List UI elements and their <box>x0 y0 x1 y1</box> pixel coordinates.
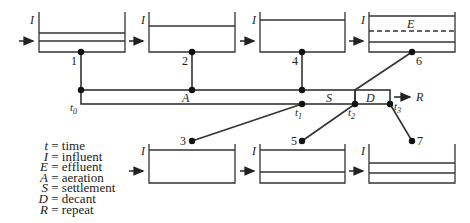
phase-decant: D <box>365 91 375 105</box>
svg-text:4: 4 <box>292 54 298 68</box>
time-t1: t1 <box>295 106 302 121</box>
tank-4 <box>260 12 345 52</box>
svg-text:I: I <box>251 13 257 27</box>
phase-settlement: S <box>326 91 332 105</box>
svg-text:I: I <box>140 144 146 158</box>
timeline <box>81 90 410 104</box>
tank-3 <box>149 144 235 183</box>
legend-item: R = repeat <box>38 205 115 216</box>
svg-text:7: 7 <box>417 134 423 148</box>
svg-text:I: I <box>140 13 146 27</box>
legend: t = time I = influent E = effluent A = a… <box>38 141 115 215</box>
tank-1 <box>39 12 125 52</box>
nodes <box>78 49 415 144</box>
phase-aeration: A <box>181 91 190 105</box>
svg-text:3: 3 <box>180 134 186 148</box>
phase-repeat: R <box>415 90 424 104</box>
connectors <box>81 52 412 141</box>
tank-5 <box>260 144 345 183</box>
svg-text:6: 6 <box>416 54 422 68</box>
tank-2 <box>149 12 235 52</box>
svg-text:1: 1 <box>71 54 77 68</box>
tank-7 <box>369 144 455 183</box>
svg-text:I: I <box>360 144 366 158</box>
svg-text:I: I <box>360 13 366 27</box>
time-t0: t0 <box>70 101 77 116</box>
svg-text:I: I <box>251 144 257 158</box>
svg-text:5: 5 <box>291 134 297 148</box>
influent-label: I <box>29 13 35 27</box>
time-t2: t2 <box>348 106 355 121</box>
svg-text:2: 2 <box>182 54 188 68</box>
effluent-label: E <box>406 17 415 31</box>
